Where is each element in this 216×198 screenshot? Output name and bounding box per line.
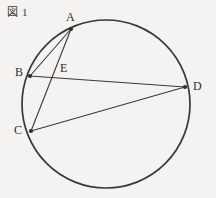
chord-ac [31, 29, 71, 131]
chord-cd [31, 87, 185, 131]
figure-caption-marker: 図 [7, 7, 18, 18]
figure-container: 図 1 A B C D E [0, 0, 216, 198]
point-label-e: E [60, 62, 67, 74]
geometry-diagram-svg [0, 0, 216, 198]
vertex-dot-b [28, 74, 32, 78]
point-label-d: D [193, 80, 202, 92]
circle-outline [22, 20, 190, 188]
vertex-dot-a [69, 27, 73, 31]
figure-caption: 図 1 [7, 7, 28, 18]
vertex-dot-d [183, 85, 187, 89]
point-label-c: C [14, 124, 22, 136]
figure-caption-number: 1 [22, 7, 28, 18]
point-label-b: B [15, 66, 23, 78]
chord-bd [30, 76, 185, 87]
point-label-a: A [66, 11, 75, 23]
vertex-dot-c [29, 129, 33, 133]
